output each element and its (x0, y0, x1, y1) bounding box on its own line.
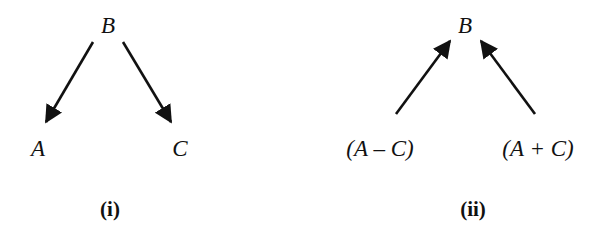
node-a-minus-c: (A – C) (346, 137, 413, 160)
arrow-a-minus-c-to-b (396, 41, 450, 114)
diagram-ii: B (A – C) (A + C) (ii) (0, 0, 605, 229)
arrow-a-plus-c-to-b (481, 41, 535, 114)
node-a-plus-c: (A + C) (502, 137, 573, 160)
diagram-ii-arrows (0, 0, 605, 229)
caption-ii: (ii) (460, 199, 486, 220)
node-b-ii: B (458, 14, 472, 37)
